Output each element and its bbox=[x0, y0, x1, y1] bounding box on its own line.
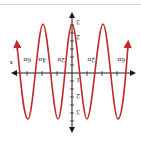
y-tick-label: 2 bbox=[76, 34, 80, 41]
x-tick-label: 6π bbox=[23, 57, 31, 64]
y-tick-label: 3 bbox=[76, 19, 80, 26]
chart-canvas: x 6π 4π 2π 2π 6π 3 2 1 2 3 bbox=[0, 0, 141, 143]
x-tick-label: 6π bbox=[117, 57, 125, 64]
x-tick-label: 2π bbox=[87, 57, 95, 64]
curve-arrow-left bbox=[17, 44, 18, 50]
x-tick-label: 4π bbox=[38, 57, 46, 64]
y-tick-label: 3 bbox=[76, 109, 80, 116]
y-tick-label: 2 bbox=[76, 93, 80, 100]
x-axis-label: x bbox=[9, 60, 13, 67]
curve-arrow-right bbox=[128, 44, 129, 50]
y-tick-label: 1 bbox=[76, 77, 80, 84]
x-tick-label: 2π bbox=[57, 57, 65, 64]
